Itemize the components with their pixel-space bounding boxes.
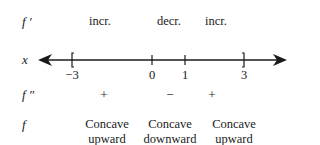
tick-label-neg3: −3 [65,68,78,83]
concavity-2-line1: Concave [144,117,197,132]
concavity-2-line2: downward [144,132,197,145]
concavity-1-line1: Concave [85,117,129,132]
fdoubleprime-sign-1: + [100,87,107,103]
fdoubleprime-sign-2: − [166,87,173,103]
fdoubleprime-sign-3: + [208,87,215,103]
concavity-3-line2: upward [212,132,256,145]
tick-label-0: 0 [149,68,155,83]
concavity-1-line2: upward [85,132,129,145]
concavity-3-line1: Concave [212,117,256,132]
tick-label-1: 1 [182,68,188,83]
tick-label-3: 3 [241,68,247,83]
concavity-2: Concave downward [144,117,197,145]
concavity-1: Concave upward [85,117,129,145]
concavity-3: Concave upward [212,117,256,145]
